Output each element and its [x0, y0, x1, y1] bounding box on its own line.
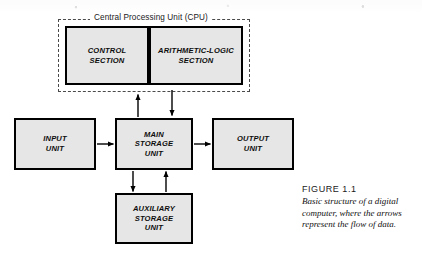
figure-caption-title: FIGURE 1.1	[302, 183, 420, 195]
figure-caption-body: Basic structure of a digital computer, w…	[302, 196, 420, 231]
figure-caption: FIGURE 1.1 Basic structure of a digital …	[302, 183, 420, 231]
figure-diagram: Central Processing Unit (CPU) CONTROL SE…	[0, 0, 422, 266]
